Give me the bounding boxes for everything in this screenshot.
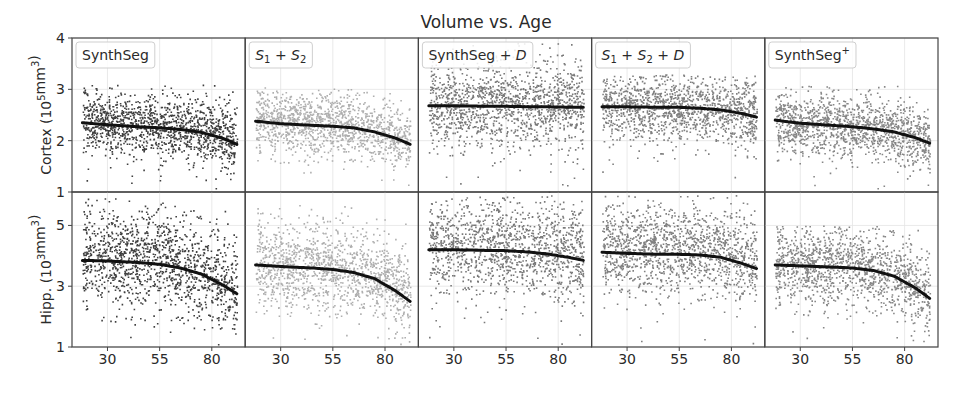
y-axis-label-cortex: Cortex (105mm3) (26, 55, 54, 174)
y-tick-label: 1 (56, 184, 65, 200)
panel-hipp-3 (592, 192, 765, 347)
x-tick-label: 55 (497, 351, 515, 367)
x-tick-label: 80 (549, 351, 567, 367)
y-axis-labels: 1234Cortex (105mm3)135Hipp. (103mm3) (26, 30, 72, 355)
panel-hipp-1 (245, 192, 418, 347)
x-tick-label: 80 (722, 351, 740, 367)
series-label: S1​ + S2​ (249, 42, 312, 68)
trend-line (429, 106, 584, 108)
figure-title: Volume vs. Age (420, 12, 551, 32)
x-tick-label: 30 (445, 351, 463, 367)
panel-cortex-2: SynthSeg + D (418, 38, 591, 193)
panel-cortex-0: SynthSeg (72, 38, 245, 192)
x-tick-label: 80 (203, 351, 221, 367)
x-tick-label: 55 (324, 351, 342, 367)
x-tick-label: 55 (844, 351, 862, 367)
series-label: S1​ + S2​ + D (596, 42, 691, 68)
y-tick-label: 3 (56, 81, 65, 97)
x-tick-label: 80 (376, 351, 394, 367)
panel-hipp-2 (418, 192, 591, 347)
scatter-points (256, 205, 412, 345)
y-tick-label: 3 (56, 278, 65, 294)
panel-cortex-3: S1​ + S2​ + D (592, 38, 765, 192)
panel-hipp-4 (765, 192, 938, 347)
x-tick-label: 30 (272, 351, 290, 367)
scatter-points (602, 195, 758, 344)
series-label: SynthSeg + D (422, 42, 532, 68)
x-tick-label: 55 (151, 351, 169, 367)
x-axis-ticks: 305580305580305580305580305580 (99, 347, 914, 367)
x-tick-label: 30 (99, 351, 117, 367)
scatter-points (775, 86, 931, 190)
y-tick-label: 1 (56, 339, 65, 355)
y-axis-label-hipp: Hipp. (103mm3) (26, 215, 54, 325)
scatter-points (83, 198, 239, 345)
x-tick-label: 55 (670, 351, 688, 367)
series-label: SynthSeg+​ (769, 42, 856, 68)
scatter-points (429, 195, 585, 345)
panel-grid: SynthSegS1​ + S2​SynthSeg + DS1​ + S2​ +… (72, 38, 938, 347)
x-tick-label: 30 (791, 351, 809, 367)
svg-text:SynthSeg + D: SynthSeg + D (428, 47, 526, 63)
panel-cortex-1: S1​ + S2​ (245, 38, 418, 192)
panel-hipp-0 (72, 192, 245, 347)
volume-vs-age-figure: Volume vs. Age 1234Cortex (105mm3)135Hip… (0, 0, 969, 396)
svg-text:SynthSeg: SynthSeg (82, 47, 149, 63)
panel-cortex-4: SynthSeg+​ (765, 38, 938, 192)
x-tick-label: 30 (618, 351, 636, 367)
y-tick-label: 4 (56, 30, 65, 46)
y-tick-label: 5 (56, 217, 65, 233)
scatter-points (602, 74, 758, 178)
series-label: SynthSeg (76, 42, 155, 68)
x-tick-label: 80 (896, 351, 914, 367)
svg-text:S1​ + S2​: S1​ + S2​ (255, 47, 306, 65)
svg-text:SynthSeg+​: SynthSeg+​ (775, 45, 850, 63)
y-tick-label: 2 (56, 133, 65, 149)
